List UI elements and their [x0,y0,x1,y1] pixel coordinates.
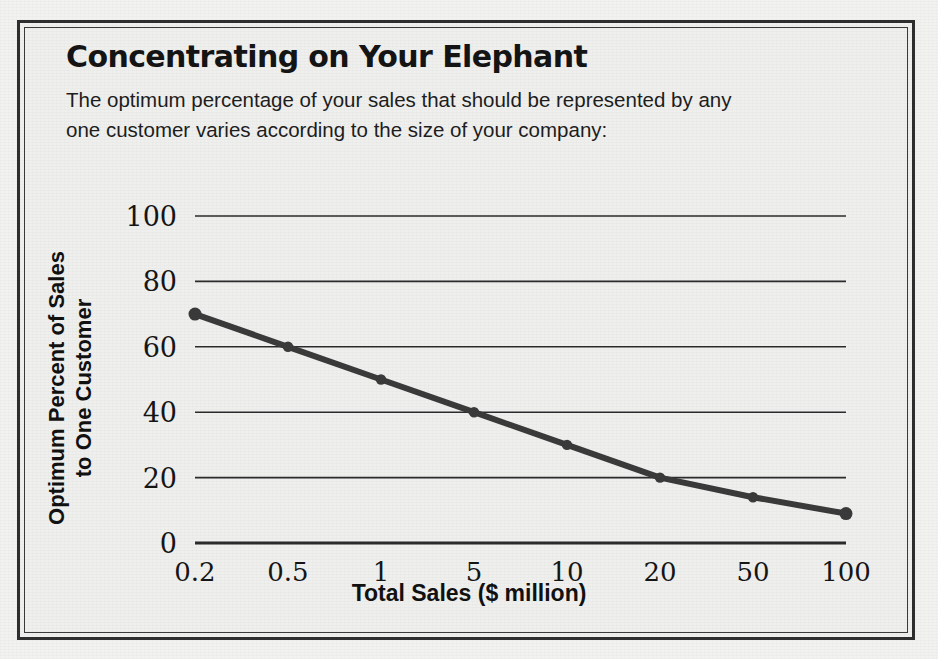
figure-panel: Concentrating on Your Elephant The optim… [17,20,915,640]
data-point-marker [469,407,479,417]
series-markers [189,308,853,520]
data-point-marker [283,342,293,352]
data-point-marker [376,374,386,384]
data-point-marker [748,492,758,502]
data-point-marker [655,472,665,482]
y-axis-tick-label: 20 [107,462,177,493]
series-line-optimum-percent [195,314,846,513]
y-axis-tick-label: 100 [107,201,177,232]
y-axis-title-line-1: Optimum Percent of Sales [43,208,70,568]
data-point-marker [562,440,572,450]
y-axis-title: Optimum Percent of Sales to One Customer [43,208,97,568]
y-axis-tick-label: 0 [107,528,177,559]
data-point-marker [840,507,853,520]
y-axis-tick-label: 60 [107,331,177,362]
x-axis-title: Total Sales ($ million) [20,580,918,607]
series-path [195,314,846,513]
y-axis-title-line-2: to One Customer [70,208,97,568]
y-axis-tick-label: 80 [107,266,177,297]
y-axis-tick-label: 40 [107,397,177,428]
plot-area: 020406080100 0.20.515102050100 Total Sal… [20,23,918,643]
data-point-marker [189,308,202,321]
